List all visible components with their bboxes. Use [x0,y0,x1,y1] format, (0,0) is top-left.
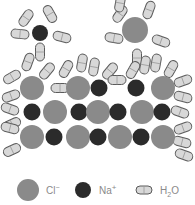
water-molecule-icon [58,59,75,79]
chloride-ion-icon [20,76,44,100]
water-molecule-icon [11,29,30,40]
water-molecule-icon [151,34,171,49]
legend-water-label: H2O [160,185,179,198]
sodium-ion-icon [24,104,41,121]
sodium-ion-icon [46,129,63,146]
water-molecule-icon [0,102,20,117]
water-molecule-icon [142,0,157,20]
legend-water-icon [136,186,152,194]
chloride-ion-icon [66,76,90,100]
legend-cl-label: Cl− [46,184,60,196]
chloride-ion-icon [43,100,67,124]
water-molecule-icon [1,89,21,104]
water-molecule-icon [42,4,59,24]
water-molecule-icon [170,105,190,120]
sodium-ion-icon [128,80,145,97]
water-molecule-icon [173,121,193,136]
water-molecule-icon [125,60,142,80]
chloride-ion-icon [122,17,148,43]
water-molecule-icon [76,53,88,72]
chloride-ion-icon [20,125,44,149]
legend-na-label: Na+ [99,183,117,196]
sodium-ion-icon [91,80,108,97]
nacl-dissolution-diagram: Cl− Na+ H2O [0,0,195,205]
sodium-ion-icon [32,25,48,41]
water-molecule-icon [172,135,192,148]
water-molecule-icon [36,43,45,61]
sodium-ion-icon [154,104,171,121]
water-molecule-icon [52,30,72,43]
chloride-ion-icon [66,125,90,149]
chloride-ion-icon [108,125,132,149]
sodium-ion-icon [90,129,107,146]
legend: Cl− Na+ H2O [17,179,179,201]
water-molecule-icon [2,69,22,86]
water-molecule-icon [21,52,36,72]
legend-cl-icon [17,179,39,201]
ions [20,17,175,149]
water-molecule-icon [88,57,100,76]
water-molecule-icon [173,90,193,103]
water-molecule-icon [174,148,194,163]
chloride-ion-icon [130,100,154,124]
water-molecule-icon [150,53,162,72]
chloride-ion-icon [151,125,175,149]
sodium-ion-icon [71,104,88,121]
water-molecule-icon [38,61,56,81]
chloride-ion-icon [86,100,110,124]
water-molecule-icon [2,142,22,158]
water-molecule-icon [17,8,35,28]
legend-na-icon [75,182,91,198]
sodium-ion-icon [133,129,150,146]
water-molecule-icon [163,59,180,79]
water-molecule-icon [108,76,126,85]
chloride-ion-icon [151,76,175,100]
sodium-ion-icon [110,104,127,121]
water-molecule-icon [104,32,123,44]
water-molecule-icon [173,74,193,89]
